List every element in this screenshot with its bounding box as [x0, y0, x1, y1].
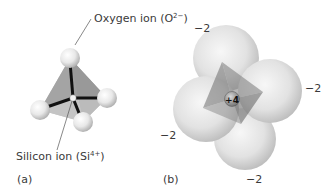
charge-label-bottom: −2 [246, 173, 262, 186]
panel-a-tetrahedron [30, 19, 117, 150]
oxygen-ion-bottom [73, 112, 93, 132]
panel-b-space-filling: +4 [173, 25, 302, 170]
center-charge: +4 [225, 95, 239, 105]
oxygen-ion-top [60, 48, 80, 68]
panel-a-label: (a) [17, 173, 32, 186]
oxygen-ion-left [30, 100, 50, 120]
panel-b-label: (b) [163, 173, 179, 186]
charge-label-top: −2 [194, 22, 210, 35]
oxygen-leader-line [75, 19, 91, 45]
charge-label-right: −2 [305, 82, 321, 95]
silicate-tetrahedron-diagram: +4 [0, 0, 333, 193]
charge-label-left: −2 [160, 129, 176, 142]
silicon-ion-label: Silicon ion (Si4+) [16, 150, 105, 163]
oxygen-ion-label: Oxygen ion (O2−) [94, 12, 188, 25]
oxygen-ion-right [97, 88, 117, 108]
silicon-ion [70, 95, 76, 101]
